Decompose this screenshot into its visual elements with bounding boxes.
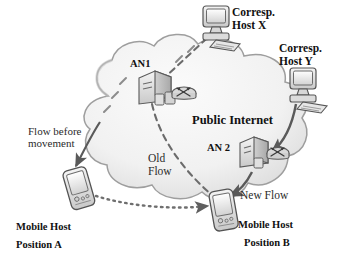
label-mobile-host-b-line1: Mobile Host [238,216,293,234]
label-corresp-host-x-line2: Host X [232,19,275,32]
label-public-internet: Public Internet [192,113,273,127]
label-old-flow-line1: Old [148,152,172,165]
label-flow-before-movement: Flow before movement [28,125,81,150]
label-old-flow-line2: Flow [148,165,172,178]
label-corresp-host-y-line2: Host Y [279,55,322,68]
label-corresp-host-y: Corresp. Host Y [279,42,322,68]
label-mobile-host-a-line1: Mobile Host [16,218,71,236]
network-diagram-figure: Corresp. Host X Corresp. Host Y AN1 AN 2… [0,0,343,262]
label-flow-before-line1: Flow before [28,125,81,137]
label-flow-before-line2: movement [28,137,81,149]
label-an1: AN1 [130,58,150,70]
label-mobile-host-b: Mobile Host Position B [238,216,293,253]
label-an2: AN 2 [207,142,230,154]
label-corresp-host-x-line1: Corresp. [232,6,275,19]
label-mobile-host-a-line2: Position A [16,236,71,254]
label-mobile-host-b-line2: Position B [244,234,293,252]
label-mobile-host-a: Mobile Host Position A [16,218,71,255]
label-old-flow: Old Flow [148,152,172,178]
node-mobile-host-a-icon [62,166,96,211]
label-new-flow: New Flow [240,189,288,202]
label-corresp-host-y-line1: Corresp. [279,42,322,55]
label-corresp-host-x: Corresp. Host X [232,6,275,32]
